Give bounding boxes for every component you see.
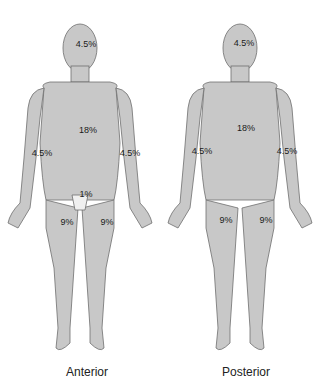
anterior-trunk-label: 18% <box>79 125 97 135</box>
anterior-leg-right-label: 9% <box>100 217 113 227</box>
posterior-head-label: 4.5% <box>234 38 255 48</box>
anterior-arm-left-label: 4.5% <box>32 148 53 158</box>
posterior-leg-left-label: 9% <box>219 215 232 225</box>
posterior-leg-right-label: 9% <box>259 215 272 225</box>
posterior-arm-right-label: 4.5% <box>277 146 298 156</box>
posterior-caption: Posterior <box>222 365 270 379</box>
posterior-trunk-label: 18% <box>237 123 255 133</box>
posterior-arm-left-label: 4.5% <box>192 146 213 156</box>
anterior-head-label: 4.5% <box>76 39 97 49</box>
anterior-genitalia-label: 1% <box>79 189 92 199</box>
anterior-leg-left-label: 9% <box>60 217 73 227</box>
anterior-caption: Anterior <box>66 365 108 379</box>
body-outlines <box>0 0 320 385</box>
rule-of-nines-diagram: 4.5% 18% 4.5% 4.5% 1% 9% 9% Anterior 4.5… <box>0 0 320 385</box>
anterior-figure <box>8 24 152 350</box>
anterior-arm-right-label: 4.5% <box>120 148 141 158</box>
posterior-figure <box>168 24 312 350</box>
